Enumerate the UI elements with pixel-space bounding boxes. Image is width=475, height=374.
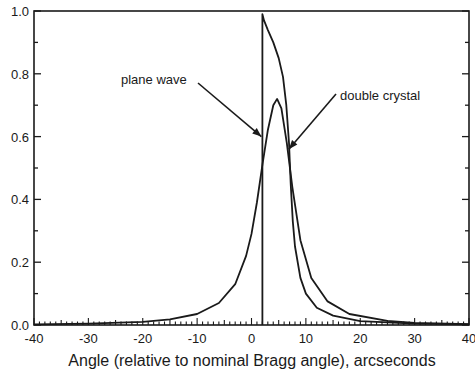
x-tick-label: 30: [407, 331, 421, 346]
series-double-crystal: [34, 99, 469, 325]
x-tick-label: 10: [299, 331, 313, 346]
x-axis-title: Angle (relative to nominal Bragg angle),…: [68, 352, 435, 369]
x-tick-label: -20: [133, 331, 152, 346]
annotations: plane wave double crystal: [121, 72, 420, 149]
x-tick-label: -40: [25, 331, 44, 346]
x-tick-label: 40: [462, 331, 475, 346]
x-tick-label: 20: [353, 331, 367, 346]
y-tick-label: 1.0: [11, 4, 29, 19]
series-layer: [34, 14, 469, 325]
y-tick-label: 0.4: [11, 192, 29, 207]
y-tick-label: 0.2: [11, 255, 29, 270]
x-tick-label: -10: [188, 331, 207, 346]
x-tick-label: -30: [79, 331, 98, 346]
series-plane-wave: [262, 14, 469, 325]
y-tick-label: 0.6: [11, 130, 29, 145]
plane-wave-arrow: [198, 83, 261, 137]
annotation-double-crystal: double crystal: [340, 88, 420, 103]
axes: 0.00.20.40.60.81.0-40-30-20-10010203040: [11, 4, 475, 346]
annotation-plane-wave: plane wave: [121, 72, 187, 87]
plot-frame: [34, 11, 469, 325]
bragg-reflectivity-chart: 0.00.20.40.60.81.0-40-30-20-10010203040 …: [0, 0, 475, 374]
double-crystal-arrow: [289, 94, 336, 149]
y-tick-label: 0.8: [11, 67, 29, 82]
x-tick-label: 0: [248, 331, 255, 346]
